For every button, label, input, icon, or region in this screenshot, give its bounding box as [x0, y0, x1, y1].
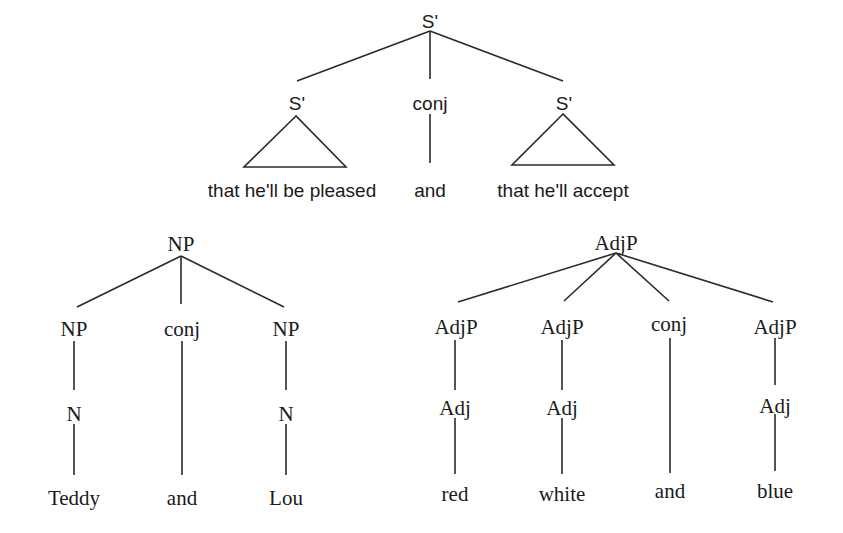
constituent-triangle — [512, 114, 614, 165]
tree-node-s-bar-tree-left: S' — [289, 93, 305, 114]
tree-node-adjp-tree-a1: AdjP — [434, 315, 477, 339]
tree-node-s-bar-tree-left-text: that he'll be pleased — [208, 180, 376, 201]
tree-edge — [297, 31, 430, 81]
constituent-triangle — [244, 116, 346, 167]
tree-node-s-bar-tree-conj: conj — [413, 93, 448, 114]
tree-node-np-tree-n1: N — [66, 402, 81, 426]
coordinated-adjective-phrase-tree: AdjPAdjPAdjPconjAdjPAdjAdjAdjredwhiteand… — [434, 231, 796, 506]
tree-node-adjp-tree-adj2: Adj — [546, 396, 578, 420]
tree-edge — [77, 256, 181, 307]
tree-node-np-tree-w2: and — [167, 486, 198, 510]
tree-edge — [564, 253, 616, 301]
tree-node-adjp-tree-adj1: Adj — [439, 396, 471, 420]
tree-node-adjp-tree-conj: conj — [651, 312, 687, 336]
tree-node-np-tree-w3: Lou — [269, 486, 303, 510]
tree-node-adjp-tree-w3: and — [655, 479, 686, 503]
tree-drawing: S'S'conjS'that he'll be pleasedandthat h… — [0, 0, 843, 533]
tree-node-adjp-tree-w2: white — [539, 482, 586, 506]
tree-node-np-tree-n2: N — [278, 402, 293, 426]
tree-node-adjp-tree-a3: AdjP — [753, 315, 796, 339]
coordinated-clause-tree: S'S'conjS'that he'll be pleasedandthat h… — [208, 11, 630, 201]
tree-node-s-bar-tree-right: S' — [556, 93, 572, 114]
tree-node-s-bar-tree-right-text: that he'll accept — [497, 180, 629, 201]
tree-node-np-tree-np1: NP — [61, 317, 88, 341]
tree-node-s-bar-tree-root: S' — [422, 11, 438, 32]
tree-edge — [616, 253, 669, 301]
tree-node-adjp-tree-root: AdjP — [594, 231, 637, 255]
tree-node-adjp-tree-w1: red — [442, 482, 469, 506]
tree-node-np-tree-conj: conj — [164, 317, 200, 341]
syntax-tree-diagram: S'S'conjS'that he'll be pleasedandthat h… — [0, 0, 843, 533]
tree-node-np-tree-np2: NP — [273, 317, 300, 341]
tree-node-adjp-tree-w4: blue — [757, 479, 793, 503]
coordinated-noun-phrase-tree: NPNPconjNPNNTeddyandLou — [48, 232, 304, 510]
tree-node-adjp-tree-a2: AdjP — [540, 315, 583, 339]
tree-edge — [181, 256, 284, 307]
tree-node-s-bar-tree-conj-text: and — [414, 180, 446, 201]
tree-node-adjp-tree-adj3: Adj — [759, 394, 791, 418]
tree-edge — [458, 253, 616, 302]
tree-edge — [430, 31, 563, 81]
tree-node-np-tree-w1: Teddy — [48, 486, 101, 510]
tree-edge — [616, 253, 773, 302]
tree-node-np-tree-root: NP — [168, 232, 195, 256]
